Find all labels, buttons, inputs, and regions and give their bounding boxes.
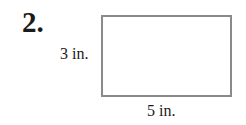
height-label: 3 in. [60,46,88,62]
rectangle-figure [101,15,232,97]
problem-number: 2. [22,8,44,37]
width-label: 5 in. [147,103,175,119]
